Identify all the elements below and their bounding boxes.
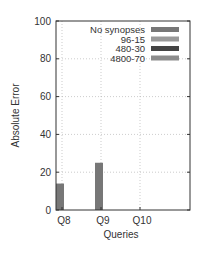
legend-swatch xyxy=(151,56,179,61)
y-tick-label: 80 xyxy=(40,53,52,64)
bar-chart: 020406080100Q8Q9Q10QueriesAbsolute Error… xyxy=(0,0,199,254)
y-tick-label: 20 xyxy=(40,167,52,178)
legend-swatch xyxy=(151,37,179,42)
legend-label: 4800-70 xyxy=(110,53,145,64)
y-tick-label: 0 xyxy=(45,205,51,216)
bar xyxy=(56,184,64,210)
legend-swatch xyxy=(151,27,179,32)
x-axis-title: Queries xyxy=(103,229,138,240)
y-tick-label: 60 xyxy=(40,91,52,102)
y-tick-label: 100 xyxy=(34,16,51,27)
bar xyxy=(95,163,103,210)
x-tick-label: Q10 xyxy=(133,215,152,226)
legend-swatch xyxy=(151,46,179,51)
chart-svg: 020406080100Q8Q9Q10QueriesAbsolute Error… xyxy=(0,0,199,254)
y-tick-label: 40 xyxy=(40,129,52,140)
y-axis-title: Absolute Error xyxy=(10,83,21,148)
x-tick-label: Q9 xyxy=(96,215,110,226)
x-tick-label: Q8 xyxy=(57,215,71,226)
